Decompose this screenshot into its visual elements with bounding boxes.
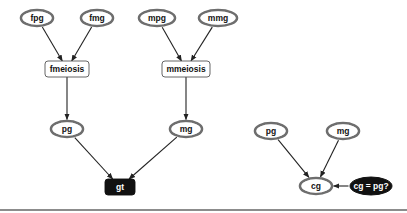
edge-mg2-to-cg — [321, 140, 339, 177]
node-fmg[interactable]: fmg — [81, 10, 113, 26]
node-mmeiosis[interactable]: mmeiosis — [162, 61, 210, 77]
node-fmeiosis[interactable]: fmeiosis — [45, 61, 89, 77]
edge-fmg-to-fmeiosis — [72, 27, 92, 61]
node-mpg[interactable]: mpg — [139, 10, 175, 26]
bayesian-network-diagram: fpgfmgmpgmmgfmeiosismmeiosispgmggtpgmgcg… — [0, 0, 407, 213]
edges — [42, 27, 348, 186]
edge-mg-to-gt — [129, 137, 177, 179]
node-label: mg — [337, 126, 350, 136]
edge-pg-to-gt — [75, 138, 113, 179]
node-label: fmeiosis — [50, 64, 85, 74]
node-fpg[interactable]: fpg — [21, 10, 53, 26]
node-label: cg — [311, 181, 321, 191]
edge-pg2-to-cg — [278, 140, 309, 178]
node-label: mpg — [148, 13, 166, 23]
node-mg2[interactable]: mg — [327, 123, 359, 139]
node-label: fpg — [30, 13, 43, 23]
node-mg[interactable]: mg — [170, 121, 202, 137]
node-label: pg — [266, 126, 276, 136]
node-label: fmg — [89, 13, 105, 23]
nodes: fpgfmgmpgmmgfmeiosismmeiosispgmggtpgmgcg… — [21, 10, 392, 195]
node-label: pg — [62, 124, 72, 134]
node-gt[interactable]: gt — [105, 179, 135, 195]
node-label: mmg — [208, 13, 228, 23]
node-label: mg — [180, 124, 193, 134]
node-label: cg = pg? — [353, 181, 388, 191]
edge-mmg-to-mmeiosis — [191, 27, 212, 61]
node-label: mmeiosis — [166, 64, 205, 74]
node-cg[interactable]: cg — [300, 178, 332, 194]
edge-fpg-to-fmeiosis — [42, 27, 62, 61]
node-cgpg[interactable]: cg = pg? — [350, 177, 392, 195]
node-pg2[interactable]: pg — [255, 123, 287, 139]
edge-mpg-to-mmeiosis — [162, 27, 181, 61]
node-pg[interactable]: pg — [51, 121, 83, 137]
node-label: gt — [116, 182, 124, 192]
node-mmg[interactable]: mmg — [199, 10, 237, 26]
bottom-divider — [0, 209, 407, 211]
